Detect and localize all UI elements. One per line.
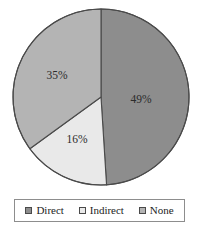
square-swatch-icon <box>25 207 32 214</box>
legend-item-direct[interactable]: Direct <box>25 205 63 216</box>
pie-chart-svg: 49%16%35% <box>0 0 201 190</box>
chart-legend: Direct Indirect None <box>14 199 185 222</box>
pie-slice-value-direct: 49% <box>130 93 152 105</box>
legend-item-none[interactable]: None <box>139 205 174 216</box>
pie-chart-area: 49%16%35% <box>0 0 201 190</box>
legend-label-direct: Direct <box>36 205 63 216</box>
legend-item-indirect[interactable]: Indirect <box>79 205 124 216</box>
pie-slice-value-indirect: 16% <box>66 133 88 145</box>
square-swatch-icon <box>139 207 146 214</box>
legend-label-none: None <box>150 205 174 216</box>
legend-label-indirect: Indirect <box>90 205 124 216</box>
pie-slices-group <box>13 9 189 185</box>
pie-slice-value-none: 35% <box>46 69 68 81</box>
chart-page: 49%16%35% Direct Indirect None <box>0 0 201 234</box>
square-swatch-icon <box>79 207 86 214</box>
